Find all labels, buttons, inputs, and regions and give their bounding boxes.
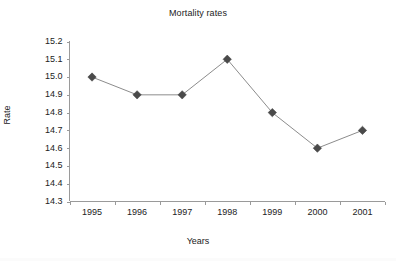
data-series-line [92,59,362,148]
y-tick-label: 14.9 [45,89,63,99]
data-point-markers [88,55,367,152]
y-tick-label: 14.8 [45,107,63,117]
bottom-edge-artifact [0,258,396,261]
x-axis-tick-labels: 1995199619971998199920002001 [82,207,372,217]
y-tick-label: 15.1 [45,54,63,64]
y-tick-label: 14.6 [45,143,63,153]
y-tick-label: 15.2 [45,36,63,46]
x-tick-label: 2000 [307,207,327,217]
x-tick-label: 1999 [262,207,282,217]
x-tick-label: 2001 [352,207,372,217]
y-tick-label: 14.5 [45,160,63,170]
x-tick-label: 1997 [172,207,192,217]
x-tick-label: 1998 [217,207,237,217]
data-point-marker [133,91,141,99]
y-tick-label: 14.4 [45,178,63,188]
y-tick-label: 15.0 [45,71,63,81]
x-tick-label: 1995 [82,207,102,217]
plot-area: 15.215.115.014.914.814.714.614.514.414.3… [0,0,396,262]
x-axis-title: Years [0,236,396,246]
y-tick-label: 14.7 [45,125,63,135]
mortality-rates-chart: Mortality rates Rate 15.215.115.014.914.… [0,0,396,262]
data-point-marker [88,73,96,81]
y-axis-tick-labels: 15.215.115.014.914.814.714.614.514.414.3 [45,36,63,206]
y-tick-label: 14.3 [45,196,63,206]
data-point-marker [358,126,366,134]
x-tick-label: 1996 [127,207,147,217]
